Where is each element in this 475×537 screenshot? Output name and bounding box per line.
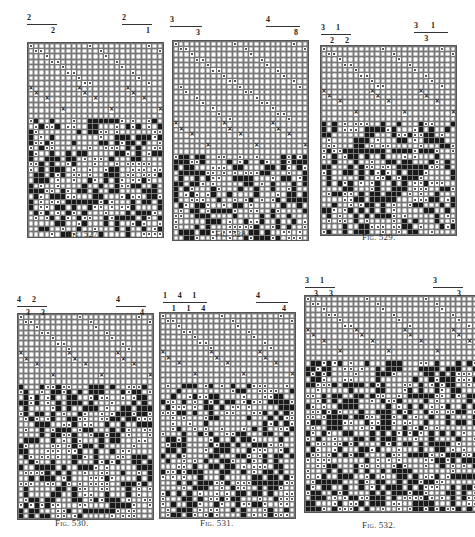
weave-cell: [381, 453, 385, 457]
weave-cell: [451, 480, 455, 484]
weave-cell: [238, 112, 242, 116]
weave-cell: [51, 455, 55, 459]
weave-cell: [174, 219, 178, 223]
weave-cell: [158, 108, 162, 112]
weave-cell: [402, 90, 406, 94]
weave-cell: [35, 476, 39, 480]
weave-cell: [386, 372, 390, 376]
weave-cell: [209, 497, 213, 501]
weave-cell: [236, 470, 240, 474]
weave-cell: [276, 63, 280, 67]
weave-cell: [82, 221, 86, 225]
weave-cell: [429, 111, 433, 115]
weave-cell: [306, 340, 310, 344]
weave-cell: [99, 352, 103, 356]
weave-cell: [244, 214, 248, 218]
weave-cell: [413, 90, 417, 94]
weave-cell: [158, 92, 162, 96]
weave-cell: [381, 350, 385, 354]
weave-cell: [446, 464, 450, 468]
weave-cell: [265, 182, 269, 186]
weave-cell: [397, 345, 401, 349]
weave-cell: [220, 443, 224, 447]
weave-cell: [161, 335, 165, 339]
weave-cell: [247, 464, 251, 468]
weave-cell: [386, 47, 390, 51]
weave-cell: [451, 485, 455, 489]
weave-cell: [236, 373, 240, 377]
weave-cell: [316, 453, 320, 457]
weave-cell: [231, 324, 235, 328]
weave-cell: [392, 133, 396, 137]
weave-cell: [254, 106, 258, 110]
weave-cell: [413, 160, 417, 164]
weave-grid: [172, 40, 309, 241]
weave-cell: [397, 203, 401, 207]
weave-cell: [88, 135, 92, 139]
weave-cell: [392, 79, 396, 83]
weave-cell: [211, 52, 215, 56]
weave-cell: [276, 58, 280, 62]
weave-cell: [419, 181, 423, 185]
weave-cell: [40, 325, 44, 329]
weave-cell: [88, 97, 92, 101]
weave-cell: [451, 410, 455, 414]
weave-cell: [332, 501, 336, 505]
weave-cell: [386, 334, 390, 338]
weave-cell: [115, 44, 119, 48]
weave-cell: [338, 420, 342, 424]
weave-cell: [271, 203, 275, 207]
weave-cell: [408, 404, 412, 408]
weave-cell: [72, 124, 76, 128]
weave-cell: [402, 181, 406, 185]
weave-cell: [236, 459, 240, 463]
weave-cell: [211, 63, 215, 67]
weave-cell: [72, 428, 76, 432]
weave-cell: [35, 482, 39, 486]
weave-cell: [177, 400, 181, 404]
weave-cell: [254, 198, 258, 202]
weave-cell: [19, 352, 23, 356]
weave-cell: [440, 219, 444, 223]
notation-rule: [170, 26, 202, 27]
weave-cell: [126, 173, 130, 177]
weave-cell: [338, 297, 342, 301]
weave-cell: [179, 203, 183, 207]
weave-cell: [408, 453, 412, 457]
weave-cell: [424, 307, 428, 311]
weave-cell: [343, 388, 347, 392]
weave-cell: [348, 100, 352, 104]
weave-cell: [419, 176, 423, 180]
weave-cell: [354, 170, 358, 174]
weave-cell: [429, 79, 433, 83]
weave-cell: [142, 124, 146, 128]
weave-cell: [386, 127, 390, 131]
weave-cell: [177, 432, 181, 436]
weave-cell: [263, 378, 267, 382]
weave-cell: [397, 160, 401, 164]
weave-cell: [359, 361, 363, 365]
weave-cell: [279, 378, 283, 382]
weave-cell: [152, 232, 156, 236]
weave-cell: [354, 122, 358, 126]
weave-cell: [354, 410, 358, 414]
weave-cell: [72, 433, 76, 437]
weave-cell: [29, 444, 33, 448]
weave-cell: [142, 76, 146, 80]
weave-cell: [354, 367, 358, 371]
weave-cell: [402, 95, 406, 99]
weave-cell: [142, 81, 146, 85]
weave-cell: [249, 117, 253, 121]
weave-cell: [187, 394, 191, 398]
weave-cell: [72, 60, 76, 64]
weave-cell: [78, 460, 82, 464]
weave-cell: [327, 329, 331, 333]
weave-cell: [429, 106, 433, 110]
weave-cell: [297, 63, 301, 67]
weave-cell: [354, 464, 358, 468]
weave-cell: [217, 52, 221, 56]
weave-cell: [397, 453, 401, 457]
weave-cell: [161, 340, 165, 344]
weave-cell: [462, 329, 466, 333]
weave-cell: [209, 448, 213, 452]
